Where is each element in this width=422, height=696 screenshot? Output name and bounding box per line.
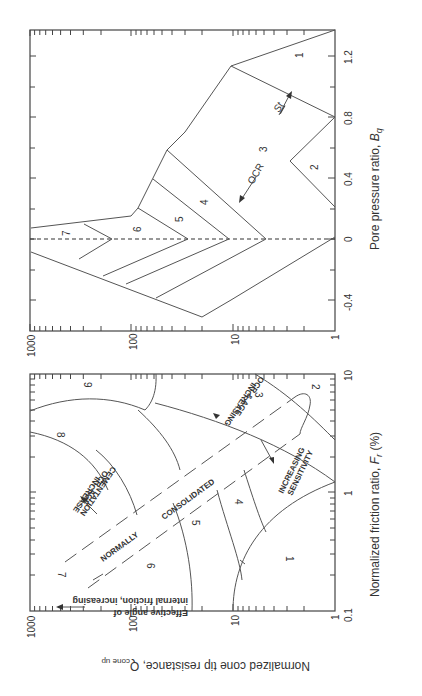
- svg-text:0.1: 0.1: [343, 608, 354, 622]
- svg-text:0.4: 0.4: [343, 172, 354, 186]
- svg-text:1000: 1000: [26, 615, 37, 638]
- fr-zone-6: 6: [145, 563, 156, 569]
- bq-zone-7: 7: [61, 230, 72, 236]
- svg-text:1: 1: [343, 490, 354, 496]
- bq-zone-6: 6: [132, 226, 143, 232]
- svg-text:100: 100: [128, 615, 139, 632]
- st-annotation: St: [271, 91, 292, 115]
- bq-plot-frame: [30, 30, 335, 331]
- bq-ticks: [30, 56, 335, 300]
- bq-zone-1: 1: [294, 52, 305, 58]
- svg-text:0.8: 0.8: [343, 111, 354, 125]
- bq-zone-3: 3: [258, 146, 269, 152]
- svg-text:100: 100: [128, 333, 139, 350]
- fr-zone-2: 2: [310, 384, 321, 390]
- ocr-label: OCR: [245, 161, 266, 186]
- svg-text:1.2: 1.2: [343, 50, 354, 64]
- fr-tick-labels: 0.1 1 10: [343, 369, 354, 622]
- bq-axis-title: Pore pressure ratio, Bq: [368, 128, 384, 250]
- svg-text:1000: 1000: [26, 334, 37, 357]
- fr-q-ticks: [35, 374, 304, 611]
- fr-zone-4: 4: [233, 499, 244, 505]
- ocr-annotation: OCR: [239, 161, 266, 203]
- fr-zone-9: 9: [82, 382, 93, 388]
- svg-text:10: 10: [230, 614, 241, 626]
- fr-chart: NORMALLY CONSOLIDATED INCREASE OCR, AGE,…: [26, 369, 384, 638]
- svg-text:internal friction, increasing: internal friction, increasing: [72, 596, 188, 606]
- fr-zone-7: 7: [56, 572, 67, 578]
- fr-zone-5: 5: [190, 520, 201, 526]
- bq-zone-boundaries: [31, 30, 335, 317]
- sensitivity-annotation: INCREASING SENSITIVITY: [261, 440, 316, 497]
- soil-classification-figure: 7 6 5 4 3 2 1 OCR St 1000 100 10 1: [0, 0, 422, 696]
- fr-zone-8: 8: [55, 432, 66, 438]
- svg-text:Effective angle of: Effective angle of: [112, 608, 188, 618]
- fr-axis-title: Normalized friction ratio, Fr (%): [368, 432, 384, 597]
- friction-angle-annotation: Effective angle of internal friction, in…: [56, 596, 188, 618]
- fr-zone-1: 1: [284, 556, 295, 562]
- bq-q-tick-labels: 1000 100 10 1: [26, 333, 341, 357]
- svg-text:10: 10: [343, 369, 354, 381]
- svg-text:-0.4: -0.4: [343, 293, 354, 311]
- bq-tick-labels: -0.4 0 0.4 0.8 1.2: [343, 50, 354, 311]
- nc-label-consolidated: CONSOLIDATED: [160, 477, 217, 522]
- svg-text:1: 1: [330, 614, 341, 620]
- bq-zone-4: 4: [199, 199, 210, 205]
- bq-chart: 7 6 5 4 3 2 1 OCR St 1000 100 10 1: [26, 30, 384, 357]
- nc-label-normally: NORMALLY: [99, 530, 141, 564]
- q-axis-title: Normalized cone tip resistance, Qcone up: [101, 657, 310, 673]
- svg-text:10: 10: [230, 333, 241, 345]
- occ-annotation: INCREASE OCR, AGE, CEMENTATION: [71, 465, 118, 518]
- ocr-age-annotation: INCREASING OCR & AGE: [213, 375, 266, 428]
- svg-text:0: 0: [343, 236, 354, 242]
- st-label: St: [271, 99, 286, 114]
- fr-zone-3: 3: [253, 392, 264, 398]
- bq-q-ticks: [30, 30, 304, 331]
- svg-text:1: 1: [330, 334, 341, 340]
- bq-zone-2: 2: [309, 164, 320, 170]
- bq-zone-5: 5: [174, 216, 185, 222]
